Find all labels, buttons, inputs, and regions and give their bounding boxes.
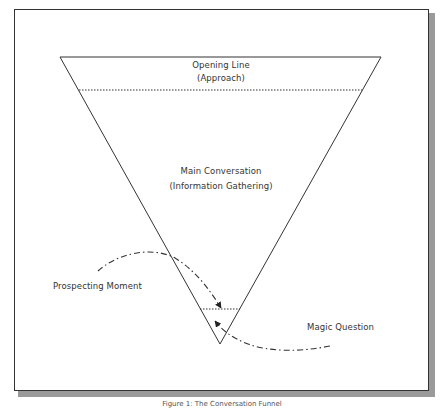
main-conversation-label: Main Conversation [181,166,262,176]
opening-line-label: Opening Line [192,60,249,70]
funnel-triangle [60,57,381,344]
information-gathering-label: (Information Gathering) [169,181,272,191]
magic-question-label: Magic Question [307,322,374,332]
prospecting-moment-label: Prospecting Moment [53,281,142,291]
prospecting-arrow [98,252,221,308]
figure-caption: Figure 1: The Conversation Funnel [162,400,282,408]
approach-label: (Approach) [197,73,245,83]
